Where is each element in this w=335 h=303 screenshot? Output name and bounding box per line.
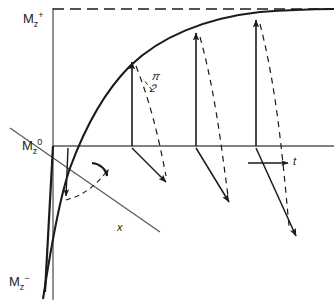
magnetization-recovery-figure: Mz+ Mz0 Mz− π 2 x t — [0, 0, 335, 303]
label-mz-zero-sup: 0 — [37, 137, 42, 147]
label-mz-plus-sup: + — [38, 10, 43, 20]
label-mz-plus-base: M — [23, 11, 34, 26]
label-mz-minus-sup: − — [24, 273, 29, 283]
label-mz-zero: Mz0 — [22, 139, 42, 152]
label-mz-minus-base: M — [9, 274, 20, 289]
label-mz-zero-sub: z — [33, 146, 38, 156]
origin-precession-dashed-arc — [66, 172, 106, 200]
label-x-axis: x — [117, 222, 123, 233]
flip-path-dashed-2 — [200, 37, 228, 196]
recovery-curve — [43, 9, 334, 299]
transverse-arrow-3 — [256, 148, 296, 236]
figure-canvas — [0, 0, 335, 303]
label-mz-zero-base: M — [22, 138, 33, 153]
inverted-magnetization-vector — [45, 146, 53, 292]
label-mz-minus: Mz− — [9, 275, 30, 288]
label-mz-plus: Mz+ — [23, 12, 44, 25]
label-t-axis: t — [293, 156, 296, 167]
origin-down-arrow — [66, 148, 68, 196]
flip-path-dashed-3 — [260, 24, 289, 226]
label-mz-minus-sub: z — [20, 282, 25, 292]
transverse-arrow-2 — [196, 148, 229, 202]
label-mz-plus-sub: z — [34, 19, 39, 29]
